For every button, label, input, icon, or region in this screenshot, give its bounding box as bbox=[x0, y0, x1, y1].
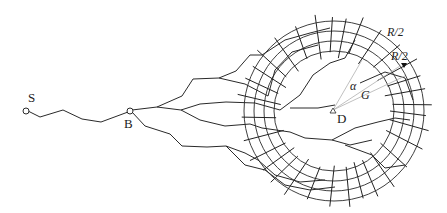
radial-tick bbox=[330, 17, 332, 52]
label-geo: G bbox=[361, 88, 370, 102]
radial-tick bbox=[354, 162, 363, 198]
angle-rays bbox=[333, 60, 405, 110]
label-outer-band: R/2 bbox=[386, 25, 404, 39]
source-node bbox=[23, 108, 29, 114]
branch-node bbox=[127, 108, 133, 114]
radial-tick bbox=[263, 148, 294, 170]
radial-tick bbox=[245, 78, 278, 93]
source-to-branch-path bbox=[28, 110, 128, 122]
radial-tick bbox=[330, 166, 335, 207]
radial-tick bbox=[244, 130, 284, 140]
radial-tick bbox=[307, 167, 320, 199]
label-inner-band: R/2 bbox=[390, 49, 408, 63]
radial-tick bbox=[346, 167, 350, 207]
branch-tree bbox=[132, 55, 280, 170]
radial-tick bbox=[296, 26, 307, 58]
diagram-canvas: S B D R/2 R/2 α G bbox=[0, 0, 447, 213]
label-destination: D bbox=[337, 111, 346, 126]
diagram-svg: S B D R/2 R/2 α G bbox=[0, 0, 447, 213]
radial-tick bbox=[242, 117, 276, 118]
radial-tick bbox=[386, 130, 422, 149]
radial-tick bbox=[390, 111, 426, 116]
radial-tick bbox=[362, 160, 377, 196]
label-source: S bbox=[28, 90, 35, 105]
label-branch: B bbox=[124, 116, 133, 131]
label-angle: α bbox=[350, 79, 357, 93]
